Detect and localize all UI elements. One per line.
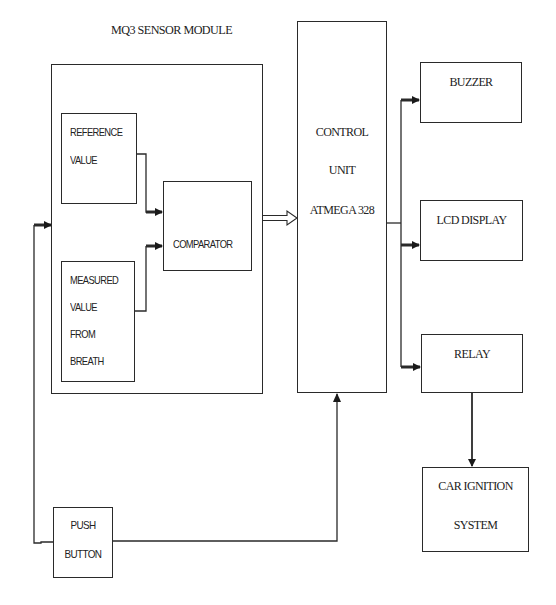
comparator-label: COMPARATOR [173, 238, 233, 250]
control-line-1: CONTROL [298, 125, 386, 140]
reference-value-block: REFERENCE VALUE [61, 113, 137, 204]
control-unit-block: CONTROL UNIT ATMEGA 328 [297, 21, 387, 393]
car-ignition-block: CAR IGNITION SYSTEM [422, 467, 529, 552]
sensor-module-title: MQ3 SENSOR MODULE [111, 22, 232, 38]
reference-line-1: REFERENCE [70, 126, 122, 138]
car-ignition-line-1: CAR IGNITION [423, 479, 528, 494]
lcd-display-block: LCD DISPLAY [420, 200, 523, 261]
double-arrow-module-to-control [262, 211, 297, 225]
car-ignition-line-2: SYSTEM [423, 518, 528, 533]
lcd-label: LCD DISPLAY [421, 213, 522, 228]
wire-push-to-control [112, 393, 341, 541]
relay-label: RELAY [422, 347, 522, 362]
control-line-2: UNIT [298, 163, 386, 178]
wire-control-output-bus [386, 100, 420, 367]
buzzer-label: BUZZER [421, 75, 521, 90]
push-line-1: PUSH [57, 519, 109, 531]
push-line-2: BUTTON [57, 548, 109, 560]
measured-line-3: FROM [70, 328, 95, 340]
push-button-block: PUSH BUTTON [53, 507, 113, 578]
buzzer-block: BUZZER [420, 62, 522, 123]
measured-value-block: MEASURED VALUE FROM BREATH [61, 261, 135, 382]
control-line-3: ATMEGA 328 [298, 203, 386, 218]
measured-line-1: MEASURED [70, 274, 118, 286]
reference-line-2: VALUE [70, 154, 97, 166]
measured-line-4: BREATH [70, 355, 104, 367]
block-diagram: MQ3 SENSOR MODULE REFERENCE VALUE COMPAR… [0, 0, 556, 605]
measured-line-2: VALUE [70, 301, 97, 313]
comparator-block: COMPARATOR [163, 181, 252, 271]
relay-block: RELAY [421, 334, 523, 393]
